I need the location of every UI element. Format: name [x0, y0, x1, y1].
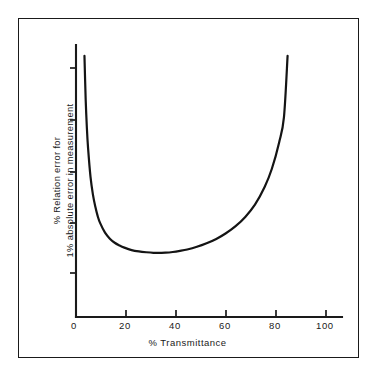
x-tick-label-100: 100: [316, 320, 334, 331]
x-tick-label-0: 0: [71, 320, 77, 331]
figure-container: 0 20 40 60 80 100 % Transmittance % Rela…: [0, 0, 375, 378]
x-tick-label-60: 60: [219, 320, 231, 331]
y-axis-title: % Relation error for 1% absolute error i…: [51, 76, 76, 286]
x-axis-title: % Transmittance: [0, 337, 375, 348]
y-axis-title-line1: % Relation error for: [51, 76, 64, 286]
x-tick-label-20: 20: [119, 320, 131, 331]
x-tick-label-40: 40: [169, 320, 181, 331]
error-curve-line: [84, 56, 287, 253]
y-axis-title-line2: 1% absolute error in measurement: [63, 76, 76, 286]
x-tick-label-80: 80: [269, 320, 281, 331]
